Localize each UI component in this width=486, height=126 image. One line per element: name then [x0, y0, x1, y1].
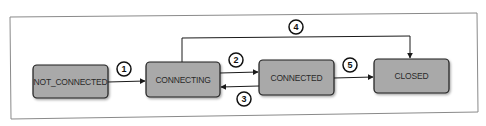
transition-1-badge: 1: [117, 62, 131, 76]
state-connected-label: CONNECTED: [270, 73, 322, 83]
state-not-connected-label: NOT_CONNECTED: [34, 77, 108, 87]
transition-2-badge: 2: [229, 53, 243, 67]
state-not-connected: NOT_CONNECTED: [33, 65, 108, 98]
state-closed-label: CLOSED: [395, 71, 429, 81]
state-connecting-label: CONNECTING: [155, 75, 210, 85]
state-closed: CLOSED: [374, 59, 449, 93]
state-diagram: NOT_CONNECTED CONNECTING CONNECTED CLOSE…: [0, 0, 486, 126]
transition-4-number: 4: [293, 22, 298, 32]
transition-3-number: 3: [241, 94, 246, 104]
transition-5-badge: 5: [343, 58, 357, 72]
transition-1-number: 1: [121, 64, 126, 74]
transition-2-number: 2: [233, 55, 238, 65]
state-connected: CONNECTED: [259, 60, 334, 95]
transition-4-badge: 4: [289, 20, 303, 34]
state-connecting: CONNECTING: [146, 62, 220, 97]
transition-3-badge: 3: [237, 92, 251, 106]
transition-5-number: 5: [347, 60, 352, 70]
